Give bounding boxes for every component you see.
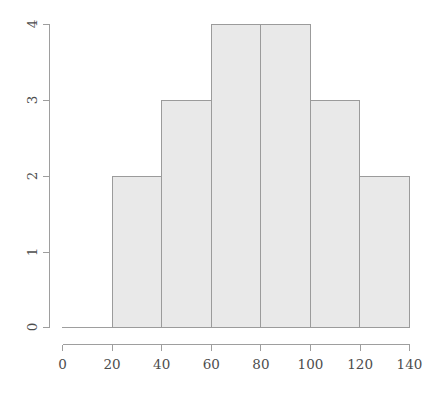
x-tick-label-100: 100 — [298, 356, 324, 372]
y-axis-tick-labels: 4 3 2 1 0 — [24, 20, 40, 332]
x-axis: 0 20 40 60 80 100 120 140 — [58, 345, 422, 373]
y-tick-label-1: 1 — [24, 248, 40, 257]
bar-bin-100-120 — [310, 100, 360, 327]
x-tick-label-120: 120 — [347, 356, 373, 372]
bar-bin-40-60 — [162, 100, 212, 327]
x-tick-label-60: 60 — [203, 356, 220, 372]
bar-bin-20-40 — [112, 176, 162, 328]
y-tick-label-0: 0 — [24, 323, 40, 332]
y-axis-ticks — [43, 25, 50, 328]
plot-area: 4 3 2 1 0 — [0, 0, 438, 399]
x-tick-label-20: 20 — [104, 356, 121, 372]
histogram-bars — [112, 25, 409, 328]
y-tick-label-4: 4 — [24, 20, 40, 29]
x-tick-label-80: 80 — [252, 356, 269, 372]
x-tick-label-0: 0 — [58, 356, 67, 372]
histogram-figure: 4 3 2 1 0 — [0, 0, 438, 399]
y-tick-label-2: 2 — [24, 172, 40, 181]
bar-bin-120-140 — [360, 176, 410, 328]
x-axis-tick-labels: 0 20 40 60 80 100 120 140 — [58, 356, 422, 372]
x-axis-ticks — [63, 345, 410, 352]
x-tick-label-140: 140 — [397, 356, 423, 372]
bar-bin-60-80 — [211, 25, 261, 328]
x-tick-label-40: 40 — [153, 356, 170, 372]
histogram-canvas: 4 3 2 1 0 — [0, 0, 438, 399]
y-tick-label-3: 3 — [24, 96, 40, 105]
bar-bin-80-100 — [261, 25, 311, 328]
y-axis: 4 3 2 1 0 — [24, 20, 50, 332]
